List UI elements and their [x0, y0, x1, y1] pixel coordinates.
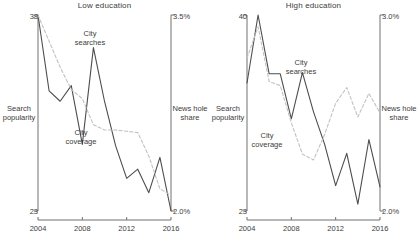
right-axis-bottom-tick: 2.0%	[382, 207, 412, 216]
x-tick-1: 2008	[283, 224, 300, 233]
x-tick-3: 2016	[372, 224, 389, 233]
annotation-city-coverage: City coverage	[241, 131, 293, 149]
annotation-city-searches: City searches	[275, 58, 327, 76]
panel-high-education: High education 40 23 3.0% 2.0% Search po…	[209, 0, 418, 245]
x-tick-3: 2016	[163, 224, 180, 233]
left-axis-top-tick: 40	[225, 12, 247, 21]
panel-low-education: Low education 38 23 3.5% 2.0% Search pop…	[0, 0, 209, 245]
right-axis-top-tick: 3.5%	[173, 12, 203, 21]
annotation-city-searches: City searches	[64, 29, 116, 47]
right-axis-title: News hole share	[381, 104, 417, 122]
right-axis-bottom-tick: 2.0%	[173, 207, 203, 216]
left-axis-title: Search popularity	[1, 104, 37, 122]
dual-panel-line-chart: Low education 38 23 3.5% 2.0% Search pop…	[0, 0, 418, 245]
x-tick-1: 2008	[74, 224, 91, 233]
x-tick-2: 2012	[327, 224, 344, 233]
x-tick-2: 2012	[118, 224, 135, 233]
left-axis-title: Search popularity	[210, 104, 246, 122]
annotation-city-coverage: City coverage	[55, 128, 107, 146]
x-tick-0: 2004	[30, 224, 47, 233]
x-tick-0: 2004	[239, 224, 256, 233]
right-axis-top-tick: 3.0%	[382, 12, 412, 21]
right-axis-title: News hole share	[172, 104, 208, 122]
left-axis-bottom-tick: 23	[16, 207, 38, 216]
left-axis-top-tick: 38	[16, 12, 38, 21]
left-axis-bottom-tick: 23	[225, 207, 247, 216]
